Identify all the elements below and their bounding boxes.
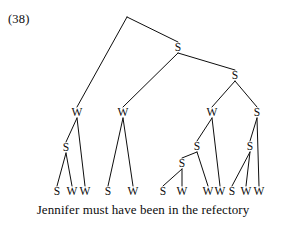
tree-edge — [235, 81, 257, 107]
tree-node-label: S — [63, 142, 70, 154]
tree-node-label: S — [247, 141, 254, 153]
tree-node-label: W — [254, 186, 265, 198]
tree-node-label: W — [72, 107, 83, 119]
tree-node-label: S — [229, 186, 236, 198]
tree-node-label: S — [105, 186, 112, 198]
tree-edge — [250, 118, 257, 141]
tree-node-label: W — [203, 186, 214, 198]
tree-edge — [178, 53, 235, 70]
tree-node-label: S — [54, 186, 61, 198]
tree-node-label: W — [207, 107, 218, 119]
figure-canvas: (38) SSWWWSSSSSSWWSWSWWWSWW Jennifer mus… — [0, 0, 286, 228]
tree-edge — [123, 53, 178, 107]
tree-edge — [232, 152, 250, 186]
tree-edge — [197, 152, 208, 186]
tree-node-label: S — [175, 42, 182, 54]
tree-node-label: S — [179, 158, 186, 170]
tree-edge — [77, 118, 85, 186]
tree-edge-group — [57, 17, 259, 186]
tree-edge — [246, 152, 250, 186]
tree-node-label: W — [118, 107, 129, 119]
tree-edge — [66, 153, 72, 186]
tree-node-label: S — [254, 107, 261, 119]
tree-node-label: W — [67, 186, 78, 198]
tree-node-label: W — [128, 186, 139, 198]
tree-node-label: W — [215, 186, 226, 198]
tree-edge — [212, 118, 220, 186]
tree-edge — [77, 17, 127, 107]
tree-edge — [257, 118, 259, 186]
tree-node-label: S — [232, 70, 239, 82]
tree-node-label: W — [177, 186, 188, 198]
sentence-text: Jennifer must have been in the refectory — [37, 203, 250, 216]
tree-edge — [108, 118, 123, 186]
tree-edge — [163, 169, 182, 186]
tree-edge — [197, 118, 212, 141]
tree-edge — [212, 81, 235, 107]
tree-edge — [127, 17, 178, 42]
tree-node-label: S — [194, 141, 201, 153]
tree-node-label: W — [80, 186, 91, 198]
tree-edge — [66, 118, 77, 142]
tree-node-label: S — [160, 186, 167, 198]
tree-edge — [57, 153, 66, 186]
tree-node-label: W — [241, 186, 252, 198]
tree-edge — [123, 118, 133, 186]
